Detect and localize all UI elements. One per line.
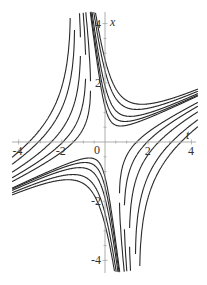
solution-curve — [120, 203, 125, 272]
solution-curve — [86, 12, 91, 81]
t-tick-label: -2 — [56, 144, 66, 158]
solution-curve — [83, 13, 85, 55]
t-tick-label: 4 — [188, 144, 194, 158]
solution-curve — [130, 247, 131, 271]
t-tick-label: -4 — [13, 144, 23, 158]
solution-curve — [124, 229, 126, 271]
t-axis-label: t — [186, 128, 190, 142]
origin-label: 0 — [94, 143, 100, 157]
solution-curve — [80, 13, 81, 37]
solution-curve — [124, 106, 197, 205]
solution-curve — [92, 12, 198, 116]
x-tick-label: -2 — [91, 194, 101, 208]
x-axis-label: x — [109, 15, 116, 29]
solution-curve — [12, 18, 70, 157]
solution-curve — [12, 79, 86, 178]
solution-curves-plot: -4-224-4-224 t x 0 — [0, 0, 207, 285]
x-tick-label: 2 — [95, 76, 101, 90]
x-tick-label: 4 — [95, 17, 101, 31]
x-tick-label: -4 — [91, 253, 101, 267]
t-tick-label: 2 — [145, 144, 151, 158]
axes — [12, 12, 196, 273]
solution-curve — [12, 168, 118, 272]
